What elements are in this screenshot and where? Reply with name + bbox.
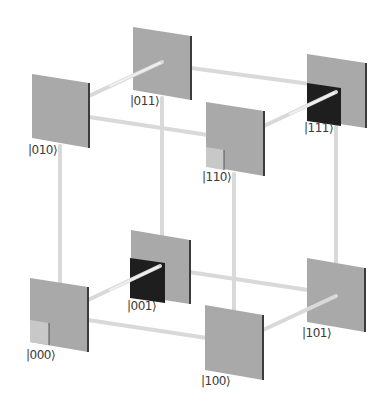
label-111: |111⟩: [304, 121, 333, 135]
plate-110: [206, 102, 264, 176]
label-000: |000⟩: [26, 348, 55, 362]
cube-svg: [0, 0, 388, 412]
amplitude-light-000: [30, 320, 49, 345]
rod-011-111: [191, 68, 310, 84]
label-011: |011⟩: [130, 94, 159, 108]
label-100: |100⟩: [201, 374, 230, 388]
rod-000-100: [88, 320, 207, 338]
amplitude-light-110: [206, 147, 224, 170]
rods-back: [60, 68, 336, 338]
label-010: |010⟩: [28, 143, 57, 157]
rod-001-101: [189, 272, 308, 290]
plate-000: [30, 278, 88, 352]
label-110: |110⟩: [202, 170, 231, 184]
plate-100: [205, 305, 263, 380]
plate-010: [32, 74, 89, 148]
label-001: |001⟩: [127, 299, 156, 313]
state-cube-diagram: |010⟩ |011⟩ |111⟩ |110⟩ |000⟩ |001⟩ |100…: [0, 0, 388, 412]
rod-010-110: [89, 117, 208, 135]
label-101: |101⟩: [302, 326, 331, 340]
